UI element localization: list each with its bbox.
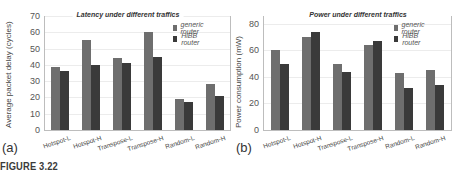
y-tick-label: 20 — [20, 92, 40, 102]
bar-hibb-router[interactable] — [153, 57, 162, 130]
bar-generic-router[interactable] — [364, 45, 373, 130]
gridline — [45, 65, 230, 66]
y-tick-label: 80 — [239, 19, 259, 29]
y-tick-label: 50 — [20, 44, 40, 54]
chart-title: Power under different traffics — [305, 11, 410, 18]
legend-swatch-icon — [173, 36, 177, 42]
legend-label: HiBB router — [402, 32, 427, 46]
panel-label: (b) — [236, 140, 252, 155]
gridline — [45, 81, 230, 82]
chart-title: Latency under different traffics — [73, 11, 184, 18]
bar-generic-router[interactable] — [333, 64, 342, 130]
bar-hibb-router[interactable] — [404, 88, 413, 130]
bar-hibb-router[interactable] — [280, 64, 289, 130]
legend-item: HiBB router — [173, 33, 206, 44]
gridline — [264, 77, 451, 78]
figure-caption: FIGURE 3.22 — [0, 160, 58, 172]
bar-hibb-router[interactable] — [184, 102, 193, 130]
bar-generic-router[interactable] — [271, 50, 280, 130]
bar-generic-router[interactable] — [144, 32, 153, 130]
bar-generic-router[interactable] — [302, 37, 311, 130]
bar-hibb-router[interactable] — [215, 96, 224, 130]
legend-item: HiBB router — [394, 33, 427, 44]
bar-hibb-router[interactable] — [435, 85, 444, 130]
bar-generic-router[interactable] — [82, 40, 91, 130]
legend-label: HiBB router — [181, 32, 206, 46]
legend-swatch-icon — [173, 25, 177, 31]
gridline — [45, 114, 230, 115]
y-axis-label: Power consumption (mW) — [234, 36, 243, 128]
y-tick-label: 10 — [20, 109, 40, 119]
bar-generic-router[interactable] — [206, 84, 215, 130]
bar-hibb-router[interactable] — [60, 71, 69, 130]
bar-hibb-router[interactable] — [342, 72, 351, 130]
panel-label: (a) — [2, 140, 18, 155]
bar-generic-router[interactable] — [51, 67, 60, 131]
bar-generic-router[interactable] — [113, 58, 122, 130]
y-tick-label: 0 — [20, 125, 40, 135]
legend: generic routerHiBB router — [173, 22, 206, 44]
bar-hibb-router[interactable] — [122, 63, 131, 130]
legend-swatch-icon — [394, 25, 398, 31]
y-tick-label: 70 — [20, 11, 40, 21]
bar-generic-router[interactable] — [395, 73, 404, 130]
y-axis-label: Average packet delay (cycles) — [4, 21, 13, 128]
bar-hibb-router[interactable] — [91, 65, 100, 130]
bar-generic-router[interactable] — [426, 70, 435, 130]
y-tick-label: 40 — [20, 60, 40, 70]
gridline — [264, 103, 451, 104]
gridline — [45, 49, 230, 50]
legend: generic routerHiBB router — [394, 22, 427, 44]
y-tick-label: 60 — [20, 27, 40, 37]
bar-generic-router[interactable] — [175, 99, 184, 130]
bar-hibb-router[interactable] — [373, 41, 382, 130]
gridline — [264, 50, 451, 51]
legend-swatch-icon — [394, 36, 398, 42]
bar-hibb-router[interactable] — [311, 32, 320, 130]
y-tick-label: 30 — [20, 76, 40, 86]
gridline — [45, 97, 230, 98]
